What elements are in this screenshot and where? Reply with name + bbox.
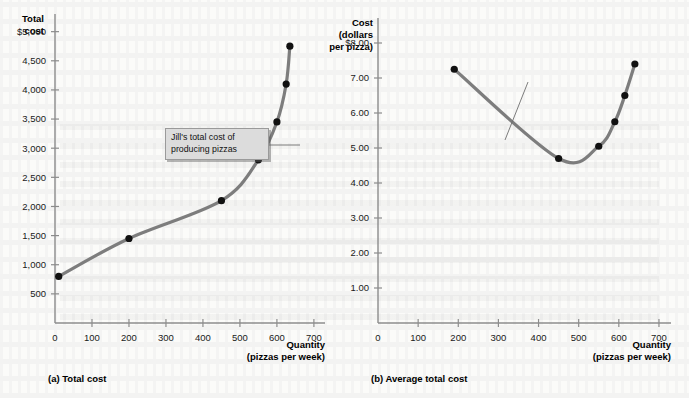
y-tick-label: 7.00 — [351, 72, 370, 83]
y-tick-label: 500 — [30, 288, 46, 299]
data-point — [621, 92, 628, 99]
x-axis-title-line1-b: Quantity — [632, 339, 671, 350]
x-tick-label: 100 — [410, 332, 426, 343]
x-tick-label: 200 — [121, 332, 137, 343]
data-point — [611, 118, 618, 125]
y-tick-label: 5.00 — [351, 142, 370, 153]
y-tick-label: 1.00 — [351, 282, 370, 293]
data-point — [125, 235, 132, 242]
panel-a-caption: (a) Total cost — [48, 373, 107, 384]
x-tick-label: 100 — [84, 332, 100, 343]
total-cost-data-points — [55, 43, 293, 280]
chart-panel-average-total-cost: Cost (dollars per pizza) 1.002.003.004.0… — [323, 0, 689, 398]
average-total-cost-plot: Cost (dollars per pizza) 1.002.003.004.0… — [323, 0, 689, 398]
x-tick-label: 500 — [232, 332, 248, 343]
average-total-cost-data-points — [451, 60, 639, 162]
y-tick-label: 4,500 — [22, 55, 46, 66]
data-point — [451, 66, 458, 73]
total-cost-plot: Total cost 5001,0001,5002,0002,5003,0003… — [0, 0, 345, 398]
y-tick-label: $5,000 — [17, 26, 46, 37]
y-axis-title-line1-b: Cost — [352, 17, 374, 28]
data-point — [218, 197, 225, 204]
callout-total-cost: Jill's total cost of producing pizzas — [165, 128, 269, 160]
panel-b-caption: (b) Average total cost — [371, 373, 468, 384]
x-tick-label: 400 — [531, 332, 547, 343]
y-tick-label: $8.00 — [345, 37, 369, 48]
y-axis-ticks-b: 1.002.003.004.005.006.007.00$8.00 — [345, 37, 382, 293]
x-tick-label: 0 — [52, 332, 57, 343]
x-tick-label: 300 — [490, 332, 506, 343]
callout-a-line2: producing pizzas — [171, 144, 263, 156]
x-axis-title-line1: Quantity — [286, 339, 325, 350]
y-tick-label: 2,500 — [22, 172, 46, 183]
chart-panel-total-cost: Total cost 5001,0001,5002,0002,5003,0003… — [0, 0, 345, 398]
y-tick-label: 1,500 — [22, 230, 46, 241]
y-tick-label: 3.00 — [351, 212, 370, 223]
data-point — [273, 118, 280, 125]
x-tick-label: 200 — [450, 332, 466, 343]
y-tick-label: 4,000 — [22, 84, 46, 95]
data-point — [555, 155, 562, 162]
data-point — [55, 273, 62, 280]
y-axis-ticks: 5001,0001,5002,0002,5003,0003,5004,0004,… — [17, 26, 59, 299]
callout-a-line1: Jill's total cost of — [171, 132, 263, 144]
x-tick-label: 600 — [611, 332, 627, 343]
average-total-cost-curve — [454, 64, 635, 163]
y-tick-label: 3,500 — [22, 113, 46, 124]
x-tick-label: 300 — [158, 332, 174, 343]
y-tick-label: 1,000 — [22, 259, 46, 270]
data-point — [631, 60, 638, 67]
x-tick-label: 500 — [571, 332, 587, 343]
data-point — [283, 81, 290, 88]
x-axis-title-line2-b: (pizzas per week) — [593, 351, 671, 362]
data-point — [595, 143, 602, 150]
x-axis-title-line2: (pizzas per week) — [247, 351, 325, 362]
y-tick-label: 2,000 — [22, 201, 46, 212]
y-tick-label: 6.00 — [351, 107, 370, 118]
y-tick-label: 4.00 — [351, 177, 370, 188]
x-tick-label: 600 — [269, 332, 285, 343]
data-point — [286, 43, 293, 50]
y-tick-label: 3,000 — [22, 143, 46, 154]
y-tick-label: 2.00 — [351, 247, 370, 258]
x-tick-label: 0 — [375, 332, 380, 343]
x-tick-label: 400 — [195, 332, 211, 343]
y-axis-title-line1: Total — [22, 13, 44, 24]
